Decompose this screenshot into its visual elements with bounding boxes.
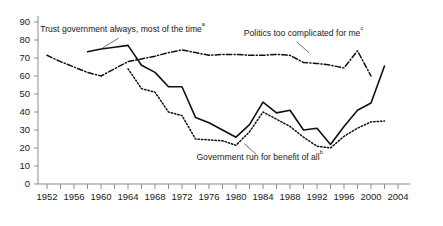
y-axis-tick-label: 40 — [19, 106, 30, 117]
x-axis-tick-label: 1956 — [63, 191, 84, 202]
x-axis: 1952195619601964196819721976198019841988… — [36, 184, 410, 202]
annotation-group: Trust government always, most of the tim… — [40, 21, 363, 161]
x-axis-tick-label: 1960 — [90, 191, 111, 202]
x-axis-tick-label: 1996 — [333, 191, 354, 202]
y-axis: 0102030405060708090 — [19, 16, 38, 189]
x-axis-tick-label: 2004 — [387, 191, 408, 202]
line-chart: 0102030405060708090 19521956196019641968… — [0, 0, 443, 226]
y-axis-tick-label: 80 — [19, 34, 30, 45]
x-axis-tick-label: 1984 — [252, 191, 273, 202]
y-axis-tick-label: 70 — [19, 52, 30, 63]
x-axis-tick-label: 1964 — [117, 191, 138, 202]
y-axis-tick-label: 90 — [19, 16, 30, 27]
x-axis-tick-label: 1988 — [279, 191, 300, 202]
series-line-2 — [128, 69, 385, 148]
y-axis-tick-label: 10 — [19, 160, 30, 171]
y-axis-tick-label: 60 — [19, 70, 30, 81]
y-axis-tick-label: 50 — [19, 88, 30, 99]
x-axis-tick-label: 2000 — [360, 191, 381, 202]
annotation-benefit: Government run for benefit of allb — [196, 149, 322, 162]
series-line-3 — [47, 50, 371, 76]
x-axis-tick-label: 1992 — [306, 191, 327, 202]
annotation-leader-line-2 — [297, 42, 309, 53]
annotation-trust: Trust government always, most of the tim… — [40, 21, 206, 34]
x-axis-tick-label: 1952 — [36, 191, 57, 202]
y-axis-tick-label: 0 — [25, 178, 30, 189]
y-axis-tick-label: 20 — [19, 142, 30, 153]
data-series-group — [47, 45, 385, 148]
x-axis-tick-label: 1976 — [198, 191, 219, 202]
x-axis-tick-label: 1972 — [171, 191, 192, 202]
x-axis-tick-label: 1980 — [225, 191, 246, 202]
y-axis-tick-label: 30 — [19, 124, 30, 135]
x-axis-tick-label: 1968 — [144, 191, 165, 202]
chart-container: 0102030405060708090 19521956196019641968… — [0, 0, 443, 226]
annotation-politics: Politics too complicated for mec — [244, 25, 364, 38]
